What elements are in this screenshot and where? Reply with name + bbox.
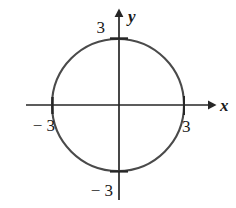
cartesian-plot: y x 3 − 3 − 3 3 xyxy=(0,0,236,208)
x-tick-label-positive-three: 3 xyxy=(182,117,191,136)
x-axis-label: x xyxy=(219,96,229,115)
x-axis-arrowhead xyxy=(208,101,217,110)
y-tick-label-positive-three: 3 xyxy=(97,18,106,37)
graph-figure: y x 3 − 3 − 3 3 xyxy=(0,0,236,208)
y-axis-label: y xyxy=(126,7,136,26)
y-tick-label-negative-three: − 3 xyxy=(91,181,113,200)
x-tick-label-negative-three: − 3 xyxy=(33,116,55,135)
y-axis-arrowhead xyxy=(115,9,124,18)
